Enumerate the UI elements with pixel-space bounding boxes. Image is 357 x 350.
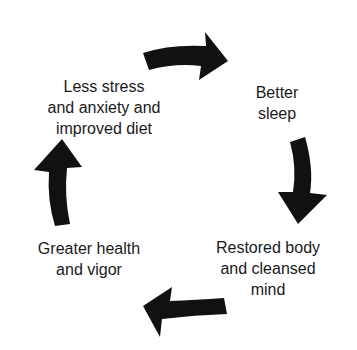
arrow-up-icon	[34, 139, 82, 226]
arrow-down-icon	[278, 137, 327, 224]
node-line: and cleansed	[204, 258, 332, 279]
arrow-right-icon	[143, 32, 228, 80]
node-restored-body: Restored body and cleansed mind	[204, 237, 332, 300]
node-line: mind	[204, 279, 332, 300]
node-less-stress: Less stress and anxiety and improved die…	[34, 76, 174, 139]
cycle-diagram: Less stress and anxiety and improved die…	[0, 0, 357, 350]
node-line: Better	[245, 82, 309, 103]
node-line: improved diet	[34, 118, 174, 139]
node-line: Less stress	[34, 76, 174, 97]
node-line: and vigor	[26, 259, 152, 280]
node-line: Greater health	[26, 238, 152, 259]
node-line: sleep	[245, 103, 309, 124]
node-line: Restored body	[204, 237, 332, 258]
node-better-sleep: Better sleep	[245, 82, 309, 124]
node-greater-health: Greater health and vigor	[26, 238, 152, 280]
node-line: and anxiety and	[34, 97, 174, 118]
